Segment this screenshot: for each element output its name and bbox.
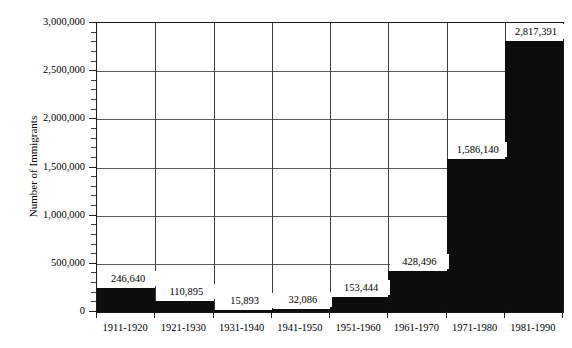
bar[interactable] [97, 288, 155, 312]
y-axis-minor-tick [91, 80, 96, 81]
x-axis-tick-label: 1971-1980 [446, 321, 504, 335]
x-axis-tick-label: 1961-1970 [387, 321, 445, 335]
x-axis-tick-label: 1921-1930 [154, 321, 212, 335]
y-axis-tick [89, 22, 96, 23]
y-axis-tick-label: 2,500,000 [0, 64, 85, 76]
y-axis-minor-tick [91, 32, 96, 33]
bar-value-label: 110,895 [157, 284, 215, 299]
y-axis-tick-label: 3,000,000 [0, 16, 85, 28]
x-axis-tick [154, 311, 155, 318]
bar-value-label: 428,496 [390, 254, 448, 269]
y-axis-minor-tick [91, 138, 96, 139]
y-axis-minor-tick [91, 89, 96, 90]
x-axis-tick [329, 311, 330, 318]
y-axis-minor-tick [91, 205, 96, 206]
x-axis-tick-label: 1911-1920 [96, 321, 154, 335]
y-axis-minor-tick [91, 61, 96, 62]
bar[interactable] [155, 301, 213, 312]
y-axis-minor-tick [91, 128, 96, 129]
x-axis-tick [446, 311, 447, 318]
plot-area [96, 22, 564, 313]
gridline-vertical [155, 23, 156, 312]
gridline-vertical [214, 23, 215, 312]
immigration-bar-chart: Number of Immigrants 246,640110,89515,89… [0, 0, 572, 348]
bar[interactable] [505, 41, 563, 312]
gridline-vertical [330, 23, 331, 312]
gridline-vertical [272, 23, 273, 312]
bar[interactable] [214, 310, 272, 312]
bar-value-label: 32,086 [274, 292, 332, 307]
y-axis-minor-tick [91, 176, 96, 177]
x-axis-tick-label: 1941-1950 [271, 321, 329, 335]
x-axis-tick [387, 311, 388, 318]
y-axis-tick [89, 311, 96, 312]
x-axis-tick-label: 1931-1940 [213, 321, 271, 335]
gridline-vertical [388, 23, 389, 312]
bar-value-label: 153,444 [332, 280, 390, 295]
bar[interactable] [272, 309, 330, 312]
y-axis-minor-tick [91, 301, 96, 302]
y-axis-minor-tick [91, 186, 96, 187]
y-axis-tick-label: 1,500,000 [0, 161, 85, 173]
y-axis-minor-tick [91, 272, 96, 273]
bar[interactable] [447, 159, 505, 312]
bar-value-label: 1,586,140 [449, 142, 507, 157]
x-axis-tick [562, 311, 563, 318]
y-axis-tick-label: 0 [0, 305, 85, 317]
bar-value-label: 246,640 [99, 271, 157, 286]
y-axis-tick-label: 500,000 [0, 257, 85, 269]
y-axis-tick [89, 167, 96, 168]
y-axis-tick [89, 263, 96, 264]
x-axis-tick [504, 311, 505, 318]
y-axis-minor-tick [91, 224, 96, 225]
y-axis-tick [89, 215, 96, 216]
y-axis-minor-tick [91, 157, 96, 158]
bar-value-label: 15,893 [216, 293, 274, 308]
bar[interactable] [330, 297, 388, 312]
x-axis-tick [213, 311, 214, 318]
x-axis-tick [96, 311, 97, 318]
y-axis-minor-tick [91, 234, 96, 235]
x-axis-tick [271, 311, 272, 318]
y-axis-tick [89, 70, 96, 71]
x-axis-tick-label: 1981-1990 [504, 321, 562, 335]
y-axis-minor-tick [91, 253, 96, 254]
y-axis-minor-tick [91, 51, 96, 52]
y-axis-minor-tick [91, 292, 96, 293]
bar[interactable] [388, 271, 446, 312]
y-axis-tick [89, 118, 96, 119]
y-axis-minor-tick [91, 99, 96, 100]
y-axis-minor-tick [91, 282, 96, 283]
y-axis-minor-tick [91, 109, 96, 110]
bar-value-label: 2,817,391 [507, 24, 565, 39]
x-axis-tick-label: 1951-1960 [329, 321, 387, 335]
y-axis-minor-tick [91, 147, 96, 148]
y-axis-tick-label: 2,000,000 [0, 112, 85, 124]
y-axis-minor-tick [91, 41, 96, 42]
y-axis-minor-tick [91, 244, 96, 245]
y-axis-tick-label: 1,000,000 [0, 209, 85, 221]
y-axis-minor-tick [91, 195, 96, 196]
